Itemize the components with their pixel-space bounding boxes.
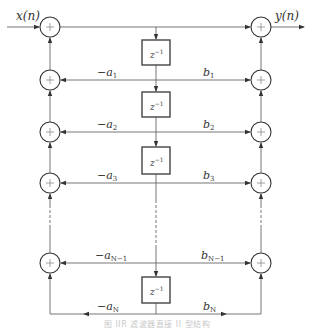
input-label: x(n) [16, 10, 40, 22]
figure-caption: 图 IIR 滤波器直接 II 型结构 [0, 318, 314, 329]
coef-b-n-1: bN−1 [201, 250, 225, 263]
coef-b1: b1 [203, 67, 215, 80]
delay-label-1: z−1 [150, 49, 164, 60]
delay-label-4: z−1 [150, 286, 164, 297]
coef-a-n-1: −aN−1 [95, 250, 127, 263]
coef-b-n: bN [203, 301, 216, 314]
coef-b3: b3 [203, 170, 215, 183]
delay-label-3: z−1 [150, 157, 164, 168]
iir-direct-form-diagram: z−1 z−1 z−1 z−1 x(n) y(n) −a1 −a2 −a3 −a… [0, 0, 314, 329]
output-label: y(n) [275, 10, 299, 22]
coef-a1: −a1 [97, 67, 117, 80]
coef-a-n: −aN [97, 301, 119, 314]
coef-a3: −a3 [97, 170, 117, 183]
coef-a2: −a2 [97, 119, 117, 132]
delay-label-2: z−1 [150, 101, 164, 112]
coef-b2: b2 [203, 119, 215, 132]
